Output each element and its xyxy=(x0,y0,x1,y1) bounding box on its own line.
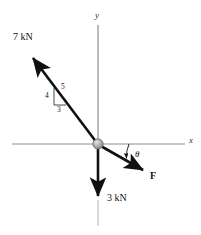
force-label-f: F xyxy=(150,171,156,181)
slope-triangle-horizontal-label: 3 xyxy=(57,106,61,114)
x-axis-label: x xyxy=(189,136,193,145)
force-diagram-figure: y x 7 kN 3 kN F 4 5 3 θ xyxy=(0,0,201,235)
y-axis-label: y xyxy=(95,11,99,20)
force-arrow-7kn xyxy=(33,58,97,143)
slope-triangle-vertical-label: 4 xyxy=(45,92,49,100)
angle-label-theta: θ xyxy=(135,150,139,159)
force-label-3kn: 3 kN xyxy=(107,193,127,203)
force-label-7kn: 7 kN xyxy=(13,32,33,42)
angle-arc-theta xyxy=(126,144,129,159)
origin-pin-icon xyxy=(93,139,103,149)
slope-triangle-hypotenuse-label: 5 xyxy=(61,83,65,91)
